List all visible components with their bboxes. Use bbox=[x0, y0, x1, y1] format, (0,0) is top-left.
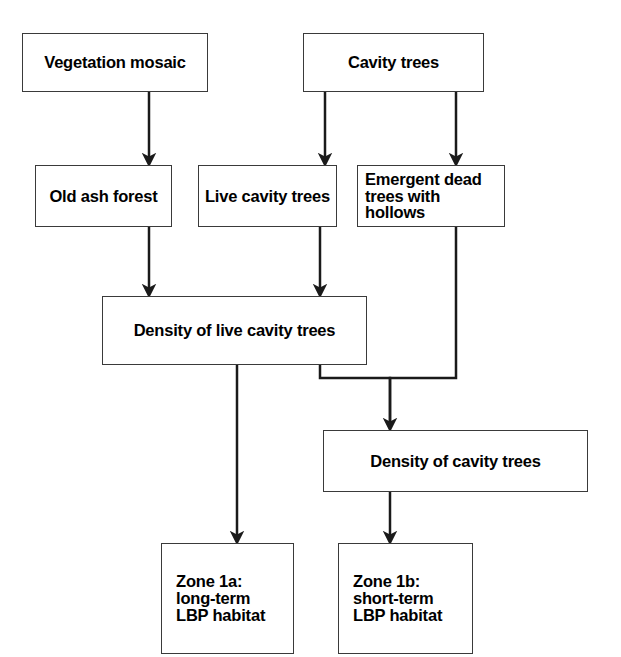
node-label: Vegetation mosaic bbox=[44, 54, 185, 71]
node-label: Density of cavity trees bbox=[370, 453, 541, 470]
node-label: Live cavity trees bbox=[205, 188, 330, 205]
node-density-of-live-cavity-trees[interactable]: Density of live cavity trees bbox=[102, 296, 367, 365]
flowchart-diagram: Vegetation mosaic Cavity trees Old ash f… bbox=[0, 0, 621, 657]
node-emergent-dead-trees-with-hollows[interactable]: Emergent dead trees with hollows bbox=[357, 165, 505, 227]
node-old-ash-forest[interactable]: Old ash forest bbox=[35, 165, 172, 227]
node-label: Emergent dead trees with hollows bbox=[365, 171, 504, 221]
node-cavity-trees[interactable]: Cavity trees bbox=[303, 33, 484, 92]
node-label: Old ash forest bbox=[49, 188, 157, 205]
node-vegetation-mosaic[interactable]: Vegetation mosaic bbox=[22, 33, 208, 92]
node-label: Cavity trees bbox=[348, 54, 439, 71]
node-zone-1a[interactable]: Zone 1a: long-term LBP habitat bbox=[161, 543, 294, 654]
node-live-cavity-trees[interactable]: Live cavity trees bbox=[198, 165, 337, 227]
node-zone-1b[interactable]: Zone 1b: short-term LBP habitat bbox=[338, 543, 473, 654]
node-label: Zone 1b: short-term LBP habitat bbox=[353, 573, 442, 623]
edge-density-live-to-density-cavity bbox=[320, 365, 390, 425]
edge-emergent-dead-to-density-cavity bbox=[390, 227, 456, 425]
node-label: Zone 1a: long-term LBP habitat bbox=[176, 573, 265, 623]
node-density-of-cavity-trees[interactable]: Density of cavity trees bbox=[323, 430, 588, 492]
node-label: Density of live cavity trees bbox=[134, 322, 336, 339]
